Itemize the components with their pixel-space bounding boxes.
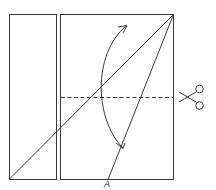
scissors-icon: [179, 85, 203, 109]
folding-diagram: [0, 0, 216, 190]
diagonal-line: [10, 15, 174, 180]
fold-arrow: [101, 26, 126, 148]
point-a-label: A: [104, 179, 110, 189]
